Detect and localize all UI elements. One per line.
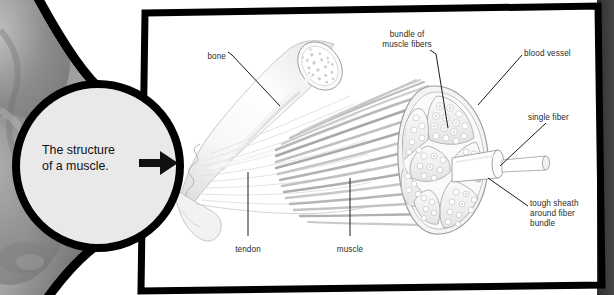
callout-arrow-layer [0, 0, 614, 295]
label-tough-sheath-around-fiber-bundle: tough sheath around fiber bundle [530, 199, 598, 230]
arrow-right-icon [139, 151, 178, 175]
label-muscle: muscle [328, 245, 372, 255]
label-single-fiber: single fiber [528, 113, 590, 123]
label-bundle-of-muscle-fibers: bundle of muscle fibers [368, 30, 446, 50]
label-bone: bone [190, 52, 226, 62]
screenshot-root: The structure of a muscle. bone bundle o… [0, 0, 614, 295]
label-blood-vessel: blood vessel [524, 49, 590, 59]
label-tendon: tendon [226, 245, 270, 255]
